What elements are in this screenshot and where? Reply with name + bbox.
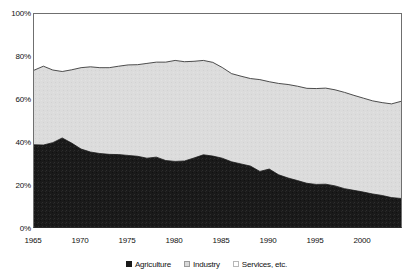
y-tick-label-40: 40% xyxy=(1,138,31,147)
x-tick-label-1980: 1980 xyxy=(158,236,190,246)
x-tick-label-1975: 1975 xyxy=(111,236,143,246)
y-axis: 100% 80% 60% 40% 20% 0% xyxy=(0,0,31,240)
x-tick-label-1985: 1985 xyxy=(205,236,237,246)
x-tick-label-1970: 1970 xyxy=(64,236,96,246)
y-tick-label-80: 80% xyxy=(1,52,31,61)
chart-container: 100% 80% 60% 40% 20% 0% xyxy=(0,0,413,276)
legend-item-agriculture[interactable]: Agriculture xyxy=(126,260,171,269)
chart-legend: Agriculture Industry Services, etc. xyxy=(0,257,413,271)
legend-swatch-industry xyxy=(184,261,190,267)
x-tick-label-1990: 1990 xyxy=(252,236,284,246)
plot-area xyxy=(33,13,402,228)
legend-label-industry: Industry xyxy=(193,260,220,269)
x-tick-label-1965: 1965 xyxy=(17,236,49,246)
legend-item-industry[interactable]: Industry xyxy=(184,260,220,269)
legend-label-agriculture: Agriculture xyxy=(135,260,171,269)
legend-swatch-agriculture xyxy=(126,261,132,267)
y-tick-label-60: 60% xyxy=(1,95,31,104)
y-tick-label-0: 0% xyxy=(1,224,31,233)
y-tick-label-20: 20% xyxy=(1,181,31,190)
y-tick-label-100: 100% xyxy=(1,9,31,18)
legend-label-services: Services, etc. xyxy=(242,260,287,269)
x-axis: 1965 1970 1975 1980 1985 1990 1995 2000 xyxy=(0,236,413,250)
stacked-area-chart xyxy=(34,14,401,227)
legend-swatch-services xyxy=(233,261,239,267)
x-tick-label-2000: 2000 xyxy=(346,236,378,246)
legend-item-services[interactable]: Services, etc. xyxy=(233,260,287,269)
x-tick-label-1995: 1995 xyxy=(299,236,331,246)
